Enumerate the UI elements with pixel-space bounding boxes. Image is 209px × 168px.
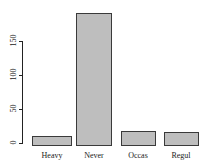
bar-heavy	[32, 136, 72, 146]
x-label-regul: Regul	[159, 151, 203, 160]
y-tick-150	[19, 41, 23, 42]
y-axis-line	[22, 41, 23, 144]
x-label-never: Never	[72, 151, 116, 160]
y-tick-label-50: 50	[9, 99, 18, 119]
x-label-occas: Occas	[116, 151, 160, 160]
y-tick-label-150: 150	[9, 31, 18, 51]
y-tick-100	[19, 75, 23, 76]
bar-never	[76, 13, 112, 146]
x-label-heavy: Heavy	[30, 151, 74, 160]
bar-chart: 0 50 100 150 Heavy Never Occas Regul	[0, 0, 209, 168]
bar-regul	[164, 132, 199, 146]
y-tick-0	[19, 143, 23, 144]
y-tick-label-100: 100	[9, 65, 18, 85]
y-tick-50	[19, 109, 23, 110]
bar-occas	[121, 131, 156, 146]
y-tick-label-0: 0	[9, 133, 18, 153]
